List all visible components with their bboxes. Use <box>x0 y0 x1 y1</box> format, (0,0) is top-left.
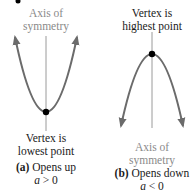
vertex-label-a-line2: lowest point <box>6 145 86 158</box>
caption-b-letter: (b) <box>115 167 129 179</box>
caption-a-line1: (a) Opens up <box>6 161 86 174</box>
condition-b: a < 0 <box>110 180 194 193</box>
condition-a-rest: > 0 <box>40 174 58 186</box>
caption-a: (a) Opens up a > 0 <box>6 161 86 187</box>
vertex-label-a-line1: Vertex is <box>6 132 86 145</box>
panel-a-graph <box>15 36 77 131</box>
caption-a-text: Opens up <box>29 161 76 173</box>
caption-b: (b) Opens down a < 0 <box>110 167 194 193</box>
axis-label-b-line1: Axis of <box>122 141 182 154</box>
vertex-dot-b <box>149 51 155 57</box>
axis-label-a-line1: Axis of <box>16 7 76 20</box>
condition-a: a > 0 <box>6 174 86 187</box>
axis-label-a: Axis of symmetry <box>16 7 76 33</box>
partial-dot-icon <box>16 0 21 4</box>
condition-b-rest: < 0 <box>146 180 164 192</box>
axis-label-a-line2: symmetry <box>16 20 76 33</box>
vertex-label-b-line1: Vertex is <box>112 7 192 20</box>
axis-label-b-line2: symmetry <box>122 154 182 167</box>
vertex-label-a: Vertex is lowest point <box>6 132 86 158</box>
vertex-dot-a <box>43 109 49 115</box>
caption-a-letter: (a) <box>16 161 29 173</box>
axis-label-b: Axis of symmetry <box>122 141 182 167</box>
caption-b-line1: (b) Opens down <box>110 167 194 180</box>
caption-b-text: Opens down <box>129 167 190 179</box>
vertex-label-b-line2: highest point <box>112 20 192 33</box>
vertex-label-b: Vertex is highest point <box>112 7 192 33</box>
panel-b-graph <box>121 32 183 128</box>
